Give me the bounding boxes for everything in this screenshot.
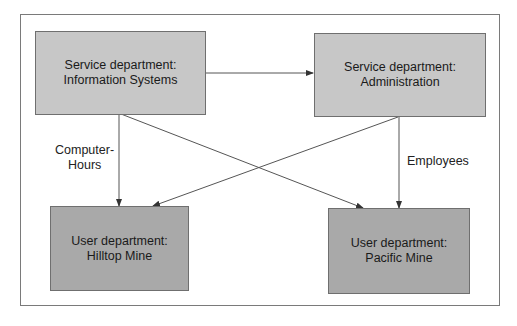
node-label-line2: Information Systems — [64, 73, 178, 88]
node-label-line2: Pacific Mine — [365, 251, 432, 266]
node-administration: Service department: Administration — [314, 33, 486, 117]
node-label-line1: User department: — [71, 234, 168, 249]
edge-label-line2: Hours — [55, 158, 114, 173]
arrow-admin-to-hilltop — [153, 117, 398, 206]
node-label-line1: Service department: — [65, 58, 177, 73]
node-label-line1: User department: — [351, 236, 448, 251]
edge-label-employees: Employees — [407, 154, 469, 169]
node-hilltop-mine: User department: Hilltop Mine — [50, 206, 189, 291]
arrow-is-to-pacific — [121, 114, 363, 208]
node-label-line2: Administration — [360, 75, 439, 90]
edge-label-computer-hours: Computer- Hours — [55, 143, 114, 173]
node-pacific-mine: User department: Pacific Mine — [328, 208, 470, 294]
edge-label-line1: Computer- — [55, 143, 114, 158]
node-label-line2: Hilltop Mine — [87, 249, 152, 264]
node-label-line1: Service department: — [344, 60, 456, 75]
node-information-systems: Service department: Information Systems — [35, 31, 206, 115]
